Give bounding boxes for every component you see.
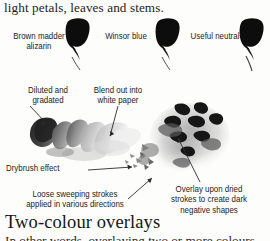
section-body-partial-line: In other words, overlaying two or more c… xyxy=(5,233,267,241)
swatch-label-brown-madder-alizarin: Brown madder alizarin xyxy=(5,31,73,52)
book-page-scan: light petals, leaves and stems. Brown ma… xyxy=(0,0,270,241)
intro-text-line: light petals, leaves and stems. xyxy=(4,0,164,16)
annotation-blend-out-into-white-paper: Blend out into white paper xyxy=(89,85,148,106)
annotation-drybrush-effect: Drybrush effect xyxy=(6,163,78,173)
annotation-diluted-and-gradated: Diluted and gradated xyxy=(20,85,75,106)
annotation-overlay-upon-dried-strokes: Overlay upon dried strokes to create dar… xyxy=(159,184,258,215)
section-heading-two-colour-overlays: Two-colour overlays xyxy=(5,212,160,233)
brush-swatch-winsor-blue xyxy=(152,17,186,61)
swatch-label-useful-neutral: Useful neutral xyxy=(183,31,247,41)
watercolour-wash-overlay-negative-shapes xyxy=(138,100,242,186)
annotation-loose-sweeping-strokes: Loose sweeping strokes applied in variou… xyxy=(15,189,135,210)
swatch-label-winsor-blue: Winsor blue xyxy=(97,31,154,41)
